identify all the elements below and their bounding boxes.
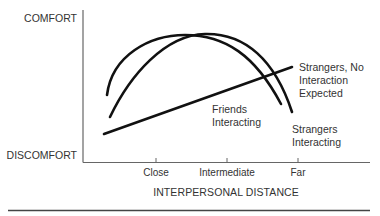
y-label-discomfort: DISCOMFORT <box>7 149 77 162</box>
label-friends-interacting: Friends Interacting <box>212 103 261 129</box>
x-tick-close: Close <box>143 166 169 179</box>
label-strangers-interacting: Strangers Interacting <box>292 123 341 149</box>
label-line: Strangers <box>292 123 341 136</box>
x-tick-far: Far <box>291 166 306 179</box>
label-line: Expected <box>299 87 364 100</box>
label-line: Friends <box>212 103 261 116</box>
x-tick-intermediate: Intermediate <box>199 166 255 179</box>
label-line: Interacting <box>212 116 261 129</box>
series-friends-interacting <box>107 35 281 104</box>
x-axis-title: INTERPERSONAL DISTANCE <box>153 186 299 199</box>
label-line: Interacting <box>292 136 341 149</box>
y-label-comfort: COMFORT <box>24 12 77 25</box>
chart-canvas <box>0 0 380 216</box>
label-line: Strangers, No <box>299 61 364 74</box>
label-line: Interaction <box>299 74 364 87</box>
label-strangers-no-interaction: Strangers, No Interaction Expected <box>299 61 364 100</box>
